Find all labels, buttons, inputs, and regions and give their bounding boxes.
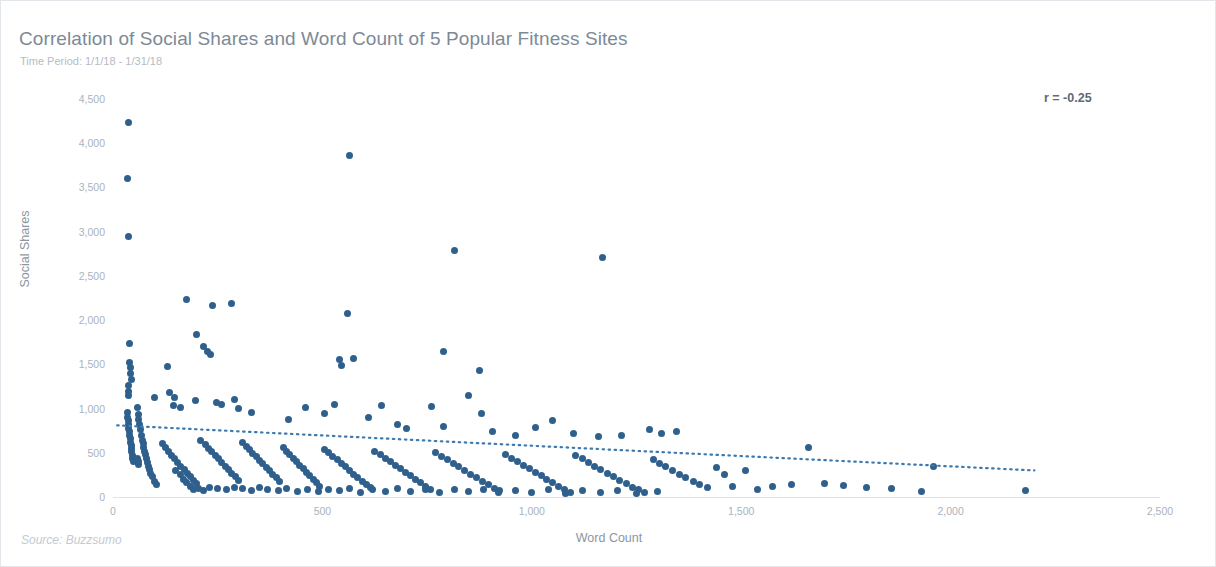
scatter-point [315,488,322,495]
scatter-point [562,490,569,497]
scatter-point [248,409,255,416]
scatter-point [125,233,132,240]
scatter-point [134,404,141,411]
scatter-point [436,489,443,496]
scatter-point [1022,487,1029,494]
scatter-point [239,485,246,492]
scatter-point [394,485,401,492]
scatter-point [579,487,586,494]
chart-subtitle: Time Period: 1/1/18 - 1/31/18 [20,55,162,67]
scatter-point [231,396,238,403]
scatter-point [805,444,812,451]
scatter-point [125,119,132,126]
scatter-point [192,397,199,404]
scatter-point [641,489,648,496]
scatter-point [633,490,640,497]
y-axis-title-label: Social Shares [18,179,32,319]
scatter-point [344,310,351,317]
scatter-point [422,486,429,493]
y-tick-label: 1,000 [79,403,105,415]
y-tick-label: 1,500 [79,358,105,370]
y-tick-label: 500 [87,447,105,459]
scatter-point [495,489,502,496]
scatter-point [207,351,214,358]
scatter-point [336,487,343,494]
scatter-point [646,426,653,433]
scatter-point [346,152,353,159]
scatter-point [228,300,235,307]
scatter-point [183,296,190,303]
scatter-point [669,467,676,474]
scatter-point [276,478,283,485]
scatter-point [729,483,736,490]
scatter-point [126,340,133,347]
scatter-point [549,417,556,424]
scatter-point [403,425,410,432]
scatter-point [193,331,200,338]
scatter-point [378,402,385,409]
scatter-point [264,486,271,493]
scatter-point [135,461,142,468]
page-title: Correlation of Social Shares and Word Co… [19,28,628,50]
scatter-point [595,433,602,440]
scatter-point [209,302,216,309]
scatter-point [304,486,311,493]
scatter-point [704,484,711,491]
scatter-point [597,489,604,496]
x-axis-line [113,497,1160,498]
scatter-point [599,254,606,261]
scatter-point [465,392,472,399]
scatter-point [214,485,221,492]
x-tick-label: 2,500 [1147,505,1173,517]
scatter-point [654,488,661,495]
scatter-point [682,474,689,481]
scatter-point [769,483,776,490]
y-tick-label: 2,500 [79,270,105,282]
scatter-point [369,486,376,493]
scatter-point [153,481,160,488]
scatter-plot-area: 05001,0001,5002,0002,5003,0003,5004,0004… [113,99,1160,497]
scatter-point [465,488,472,495]
scatter-point [528,489,535,496]
scatter-point [357,489,364,496]
scatter-point [673,428,680,435]
scatter-point [489,428,496,435]
y-tick-label: 3,500 [79,181,105,193]
scatter-point [346,485,353,492]
scatter-point [614,487,621,494]
scatter-point [713,464,720,471]
scatter-point [696,481,703,488]
y-tick-label: 3,000 [79,226,105,238]
scatter-point [125,392,132,399]
scatter-point [821,480,828,487]
scatter-point [338,362,345,369]
scatter-point [171,394,178,401]
scatter-point [618,432,625,439]
scatter-point [512,487,519,494]
scatter-point [294,488,301,495]
x-tick-label: 500 [314,505,332,517]
scatter-point [151,394,158,401]
scatter-point [918,488,925,495]
x-tick-label: 0 [110,505,116,517]
scatter-point [658,430,665,437]
scatter-point [428,403,435,410]
scatter-point [206,484,213,491]
scatter-point [321,410,328,417]
scatter-point [256,484,263,491]
scatter-point [888,485,895,492]
scatter-point [570,430,577,437]
scatter-point [545,486,552,493]
trend-line [113,99,1160,497]
scatter-point [754,486,761,493]
y-axis-title: Social Shares [18,109,32,249]
scatter-point [440,423,447,430]
y-tick-label: 2,000 [79,314,105,326]
scatter-point [788,481,795,488]
scatter-point [177,404,184,411]
scatter-point [863,484,870,491]
scatter-point [235,405,242,412]
scatter-point [512,432,519,439]
scatter-point [235,477,242,484]
scatter-point [218,401,225,408]
